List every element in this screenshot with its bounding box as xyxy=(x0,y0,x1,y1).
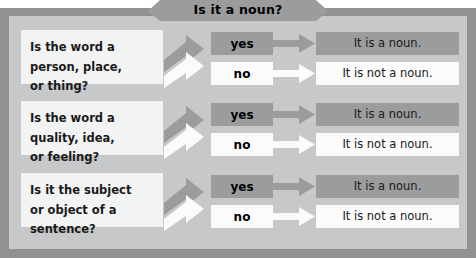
result-text-yes-1: It is a noun. xyxy=(354,38,422,50)
arrow-no-to-result-3 xyxy=(273,205,317,228)
decision-yes-1: yes xyxy=(211,32,273,55)
result-text-no-3: It is not a noun. xyxy=(342,211,432,223)
decision-no-label-3: no xyxy=(234,211,251,223)
result-box-yes-3: It is a noun. xyxy=(316,175,459,198)
question-box-1: Is the word a person, place, or thing? xyxy=(21,30,163,84)
result-box-no-1: It is not a noun. xyxy=(316,62,459,85)
decision-no-label-1: no xyxy=(234,68,251,80)
result-text-yes-3: It is a noun. xyxy=(354,181,422,193)
noun-decision-flowchart: Is it a noun? Is the word a person, plac… xyxy=(0,0,476,258)
arrow-no-to-result-1 xyxy=(273,62,317,85)
decision-no-3: no xyxy=(211,205,273,228)
question-box-3: Is it the subject or object of a sentenc… xyxy=(21,173,163,227)
result-text-no-2: It is not a noun. xyxy=(342,139,432,151)
decision-yes-2: yes xyxy=(211,103,273,126)
result-box-yes-1: It is a noun. xyxy=(316,32,459,55)
arrow-yes-to-result-1 xyxy=(273,32,317,55)
result-text-yes-2: It is a noun. xyxy=(354,109,422,121)
result-box-no-2: It is not a noun. xyxy=(316,133,459,156)
result-text-no-1: It is not a noun. xyxy=(342,68,432,80)
arrow-yes-to-result-3 xyxy=(273,175,317,198)
page-title: Is it a noun? xyxy=(194,4,283,17)
decision-yes-label-2: yes xyxy=(230,109,253,121)
fork-arrows-3 xyxy=(164,175,208,237)
fork-arrows-1 xyxy=(164,32,208,94)
decision-yes-3: yes xyxy=(211,175,273,198)
result-box-yes-2: It is a noun. xyxy=(316,103,459,126)
arrow-yes-to-result-2 xyxy=(273,103,317,126)
decision-no-2: no xyxy=(211,133,273,156)
chart-header-banner: Is it a noun? xyxy=(148,0,328,21)
arrow-no-to-result-2 xyxy=(273,133,317,156)
result-box-no-3: It is not a noun. xyxy=(316,205,459,228)
decision-no-label-2: no xyxy=(234,139,251,151)
fork-arrows-2 xyxy=(164,103,208,165)
decision-yes-label-3: yes xyxy=(230,181,253,193)
decision-yes-label-1: yes xyxy=(230,38,253,50)
decision-no-1: no xyxy=(211,62,273,85)
question-box-2: Is the word a quality, idea, or feeling? xyxy=(21,101,163,155)
